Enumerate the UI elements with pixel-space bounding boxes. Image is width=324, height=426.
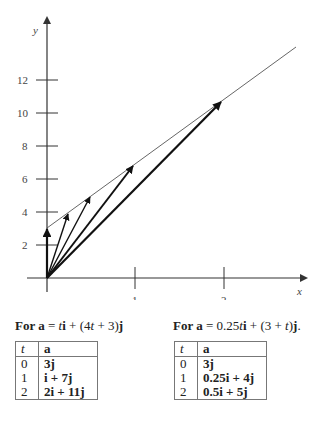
right-table: t a 0 3j 1 0.25i + 4j 2 0.5i + 5j	[174, 341, 267, 400]
y-tick-10: 10	[17, 107, 29, 119]
x-axis-label: x	[296, 285, 302, 297]
x-tick-1: 1	[132, 294, 138, 300]
vector-2i+11j	[47, 102, 221, 278]
vectors	[47, 102, 221, 278]
y-tick-8: 8	[22, 140, 28, 152]
header-t: t	[16, 342, 39, 357]
y-tick-12: 12	[17, 74, 28, 86]
header-a: a	[198, 342, 267, 357]
vector-i+7j	[47, 166, 133, 278]
left-caption: For a = ti + (4t + 3)j	[15, 318, 123, 334]
y-axis: y 2 4 6 8 10 12	[17, 16, 58, 292]
header-t: t	[175, 342, 198, 357]
right-caption: For a = 0.25ti + (3 + t)j.	[173, 318, 301, 334]
y-axis-label: y	[32, 24, 38, 36]
left-table: t a 0 3j 1 i + 7j 2 2i + 11j	[15, 341, 98, 400]
vector-0.5i+5j	[47, 197, 90, 278]
table-row: 1 i + 7j	[16, 371, 98, 385]
y-tick-4: 4	[22, 206, 28, 218]
table-row: 1 0.25i + 4j	[175, 371, 267, 385]
table-row: 2 2i + 11j	[16, 385, 98, 400]
vector-plot: y 2 4 6 8 10 12 x 1 2	[0, 0, 324, 300]
x-axis-arrow-icon	[300, 274, 308, 282]
position-line	[47, 47, 296, 228]
x-tick-2: 2	[221, 294, 227, 300]
y-tick-2: 2	[22, 239, 28, 251]
table-row: 0 3j	[175, 357, 267, 372]
y-tick-6: 6	[22, 173, 28, 185]
table-row: 2 0.5i + 5j	[175, 385, 267, 400]
table-row: 0 3j	[16, 357, 98, 372]
y-axis-arrow-icon	[43, 16, 51, 24]
x-axis: x 1 2	[27, 267, 308, 300]
header-a: a	[39, 342, 98, 357]
